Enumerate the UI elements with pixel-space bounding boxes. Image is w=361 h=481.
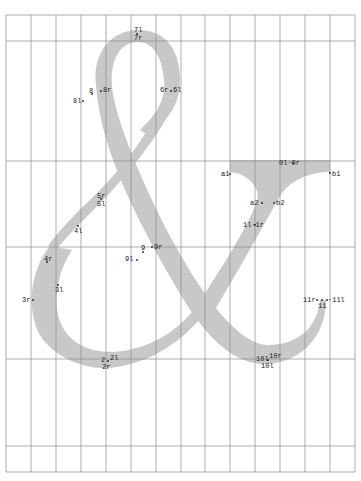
point-label-6r: 6r	[160, 87, 168, 94]
point-label-5l: 5l	[97, 201, 105, 208]
point-label-8r: 8r	[103, 87, 111, 94]
point-label-2r: 2r	[102, 364, 110, 371]
point-label-11: 11	[318, 303, 326, 310]
point-label-1l-1r: 1l·1r	[243, 222, 264, 229]
point-label-2l: 2l	[110, 355, 118, 362]
point-label-a1: a1	[221, 171, 229, 178]
point-label-3l: 3l	[55, 287, 63, 294]
point-label-5r: 5r	[97, 193, 105, 200]
point-label-9l: 9l	[125, 256, 133, 263]
point-label-7r: 7r	[134, 35, 142, 42]
point-label-9r: 9r	[154, 244, 162, 251]
point-label-8l: 8l	[73, 98, 81, 105]
point-label-9: 9	[141, 245, 145, 252]
diagram-canvas	[0, 0, 361, 481]
point-label-11r: 11r	[303, 297, 316, 304]
point-label-4r: 4r	[44, 256, 52, 263]
point-label-b1: b1	[332, 171, 340, 178]
point-label-8: 8	[89, 88, 93, 95]
point-label-a2: a2	[250, 200, 258, 207]
point-label-4l: 4l	[74, 228, 82, 235]
point-label-11l: ·11l	[328, 297, 345, 304]
point-markers	[32, 33, 331, 362]
ampersand-diagram: 7l 7r 8 8r 8l 6r 6l 5r 5l 4l 9 9r 9l 4r …	[0, 0, 361, 481]
point-label-3r: 3r	[22, 297, 30, 304]
point-label-10r: 10r	[269, 353, 282, 360]
point-label-6l: 6l	[173, 87, 181, 94]
point-label-7l: 7l	[134, 27, 142, 34]
point-label-10l-bottom: 10l	[261, 363, 274, 370]
point-label-b2: b2	[276, 200, 284, 207]
point-label-0l-0r: 0l·0r	[279, 160, 300, 167]
